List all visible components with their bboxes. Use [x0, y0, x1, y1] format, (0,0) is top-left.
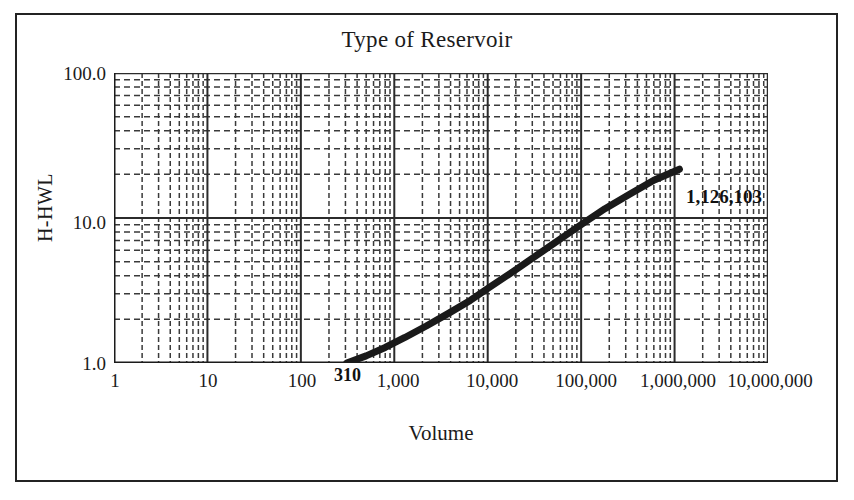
plot-canvas [114, 73, 768, 363]
x-tick-label-100000: 100,000 [555, 371, 617, 390]
x-axis-title: Volume [114, 421, 768, 446]
x-tick-label-10000: 10,000 [466, 371, 518, 390]
y-axis-tick-labels: 100.0 10.0 1.0 [14, 0, 106, 500]
start-point-annotation: 310 [334, 366, 361, 384]
chart-figure: Type of Reservoir H-HWL 100.0 10.0 1.0 1… [0, 0, 854, 500]
x-tick-label-10000000: 10,000,000 [727, 371, 813, 390]
x-tick-label-1: 1 [110, 371, 120, 390]
x-tick-label-1000000: 1,000,000 [640, 371, 716, 390]
plot-area [114, 73, 768, 363]
x-axis-tick-labels: 1 10 100 1,000 10,000 100,000 1,000,000 … [0, 371, 854, 401]
x-tick-label-100: 100 [288, 371, 317, 390]
x-tick-label-1000: 1,000 [377, 371, 420, 390]
x-tick-label-10: 10 [199, 371, 218, 390]
chart-title: Type of Reservoir [0, 27, 854, 53]
y-tick-label-100: 100.0 [20, 64, 106, 83]
data-series-line [347, 169, 680, 363]
end-point-annotation: 1,126,103 [686, 187, 762, 206]
y-tick-label-10: 10.0 [20, 213, 106, 232]
